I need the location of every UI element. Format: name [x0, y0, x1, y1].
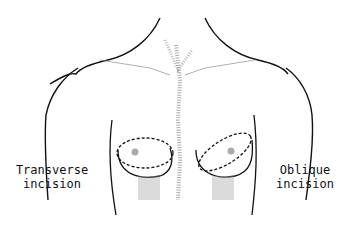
right-clavicle	[185, 60, 255, 75]
right-neck-shoulder-outline	[205, 18, 288, 74]
left-neck-shoulder-outline	[50, 18, 160, 84]
transverse-incision	[117, 138, 173, 168]
label-line: Oblique	[270, 163, 340, 177]
left-torso-side	[110, 120, 116, 215]
right-torso-side	[252, 115, 256, 215]
left-underbreast-shading	[138, 176, 160, 200]
left-breast-outline	[118, 148, 172, 177]
right-breast-outline	[196, 140, 252, 177]
right-nipple	[228, 148, 235, 155]
transverse-incision-label: Transverse incision	[12, 163, 92, 191]
torso-illustration	[0, 0, 350, 228]
label-line: incision	[270, 177, 340, 191]
oblique-incision	[193, 126, 257, 178]
label-line: Transverse	[12, 163, 92, 177]
left-clavicle	[100, 60, 170, 75]
label-line: incision	[12, 177, 92, 191]
right-underbreast-shading	[212, 176, 234, 200]
left-nipple	[132, 149, 139, 156]
oblique-incision-label: Oblique incision	[270, 163, 340, 191]
